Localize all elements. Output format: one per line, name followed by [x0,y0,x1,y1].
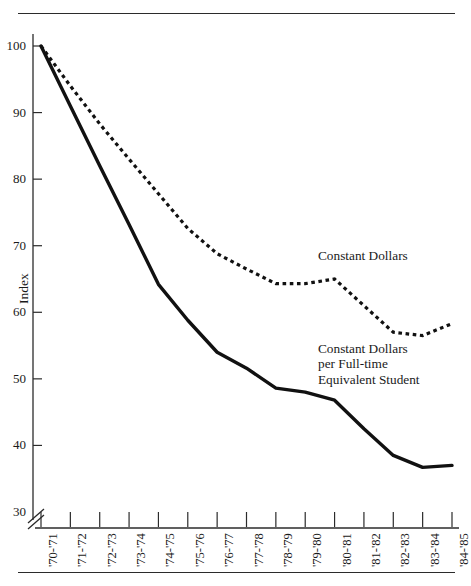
x-tick-label-0: '70-'71 [46,533,61,567]
series-constant-dollars [41,46,452,336]
y-tick-label-40: 40 [0,438,26,451]
x-axis-ticks [41,512,452,527]
x-tick-label-13: '83-'84 [428,533,443,567]
y-tick-label-60: 60 [0,305,26,318]
x-tick-label-2: '72-'73 [105,533,120,567]
y-tick-label-80: 80 [0,172,26,185]
x-tick-label-9: '79-'80 [310,533,325,567]
x-tick-label-7: '77-'78 [252,533,267,567]
y-tick-label-90: 90 [0,106,26,119]
x-tick-label-14: '84-'85 [457,533,471,567]
x-tick-label-8: '78-'79 [281,533,296,567]
x-tick-label-10: '80-'81 [340,533,355,567]
y-tick-label-70: 70 [0,239,26,252]
x-tick-label-11: '81-'82 [369,533,384,567]
x-tick-label-4: '74-'75 [163,533,178,567]
annotation-constant-dollars-per-fte: Constant Dollars per Full-time Equivalen… [318,341,420,387]
x-tick-label-12: '82-'83 [398,533,413,567]
y-tick-label-50: 50 [0,372,26,385]
x-tick-label-5: '75-'76 [193,533,208,567]
x-tick-label-3: '73-'74 [134,533,149,567]
y-axis-ticks [33,46,42,445]
y-tick-label-100: 100 [0,39,26,52]
x-tick-label-6: '76-'77 [222,533,237,567]
x-tick-label-1: '71-'72 [75,533,90,567]
y-axis-title: Index [16,273,32,304]
line-chart-plot [0,0,471,586]
annotation-constant-dollars: Constant Dollars [318,248,408,263]
y-tick-label-30: 30 [0,505,26,518]
chart-figure: 30405060708090100 '70-'71'71-'72'72-'73'… [0,0,471,586]
